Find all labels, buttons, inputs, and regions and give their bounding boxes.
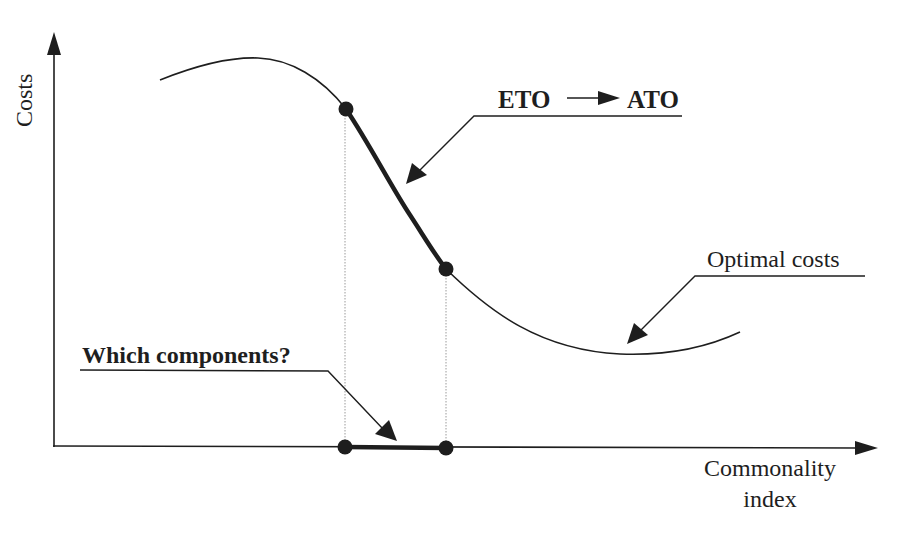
range-point-start xyxy=(338,440,353,455)
curve-point-end xyxy=(439,262,454,277)
leader-which-components xyxy=(80,370,397,441)
y-axis xyxy=(47,32,61,447)
cost-curve-left xyxy=(160,58,346,109)
cost-curve-right xyxy=(446,269,740,354)
annotation-optimal-costs: Optimal costs xyxy=(707,247,840,271)
commonality-range-segment xyxy=(345,447,446,448)
y-axis-label: Costs xyxy=(12,74,36,127)
leader-optimal-costs xyxy=(627,276,865,344)
leader-eto-ato xyxy=(406,116,682,184)
x-axis-arrow-icon xyxy=(855,441,878,455)
y-axis-arrow-icon xyxy=(47,32,61,55)
eto-ato-arrow-icon xyxy=(567,91,620,105)
diagram-canvas: Costs Commonality index ETO ATO Optimal … xyxy=(0,0,908,537)
range-point-end xyxy=(439,441,454,456)
annotation-eto: ETO xyxy=(498,87,550,112)
annotation-ato: ATO xyxy=(627,87,679,112)
x-axis-label-line2: index xyxy=(690,487,850,511)
curve-point-start xyxy=(339,102,354,117)
transition-curve-segment xyxy=(346,109,446,269)
x-axis-label: Commonality xyxy=(690,456,850,480)
annotation-which-components: Which components? xyxy=(82,343,291,367)
x-axis xyxy=(53,441,878,455)
